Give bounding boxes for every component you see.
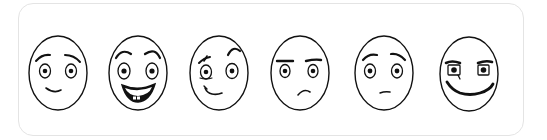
face-scheming[interactable] (440, 37, 498, 111)
face-big-grin[interactable] (109, 36, 167, 110)
tooth-icon (137, 97, 140, 100)
tooth-icon (133, 97, 136, 100)
face-worried-smile[interactable] (29, 36, 87, 110)
face-annoyed[interactable] (271, 36, 329, 110)
face-skeptical[interactable] (190, 36, 248, 110)
left-eyebrow-icon (446, 62, 460, 64)
face-concerned[interactable] (355, 36, 413, 110)
face-outline-icon (29, 36, 87, 110)
faces-canvas (0, 0, 547, 140)
face-outline-icon (190, 36, 248, 110)
face-outline-icon (355, 36, 413, 110)
right-eyebrow-icon (306, 60, 321, 61)
